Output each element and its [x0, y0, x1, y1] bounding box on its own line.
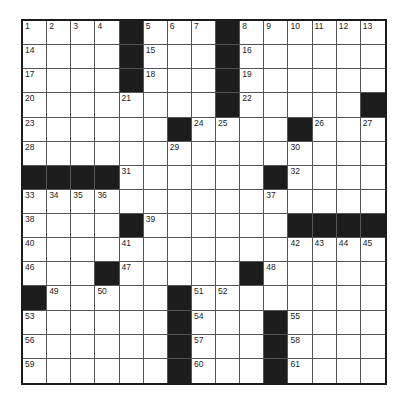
grid-cell[interactable] — [168, 45, 192, 69]
grid-cell[interactable] — [264, 118, 288, 142]
grid-cell[interactable] — [264, 214, 288, 238]
grid-cell[interactable] — [71, 359, 95, 383]
grid-cell[interactable] — [95, 69, 119, 93]
grid-cell[interactable]: 12 — [337, 21, 361, 45]
grid-cell[interactable] — [264, 69, 288, 93]
grid-cell[interactable] — [120, 286, 144, 310]
grid-cell[interactable] — [313, 166, 337, 190]
grid-cell[interactable] — [144, 142, 168, 166]
grid-cell[interactable] — [120, 190, 144, 214]
grid-cell[interactable]: 52 — [216, 286, 240, 310]
grid-cell[interactable] — [47, 311, 71, 335]
grid-cell[interactable] — [192, 45, 216, 69]
grid-cell[interactable]: 50 — [95, 286, 119, 310]
grid-cell[interactable] — [120, 311, 144, 335]
grid-cell[interactable] — [361, 190, 385, 214]
grid-cell[interactable] — [264, 238, 288, 262]
grid-cell[interactable] — [216, 262, 240, 286]
grid-cell[interactable] — [313, 359, 337, 383]
grid-cell[interactable] — [47, 93, 71, 117]
grid-cell[interactable] — [361, 262, 385, 286]
grid-cell[interactable] — [144, 118, 168, 142]
grid-cell[interactable] — [216, 311, 240, 335]
grid-cell[interactable] — [168, 262, 192, 286]
grid-cell[interactable]: 2 — [47, 21, 71, 45]
grid-cell[interactable] — [95, 238, 119, 262]
grid-cell[interactable] — [264, 286, 288, 310]
grid-cell[interactable]: 45 — [361, 238, 385, 262]
grid-cell[interactable] — [95, 45, 119, 69]
grid-cell[interactable]: 10 — [288, 21, 312, 45]
grid-cell[interactable] — [288, 45, 312, 69]
grid-cell[interactable] — [120, 142, 144, 166]
grid-cell[interactable] — [240, 286, 264, 310]
grid-cell[interactable] — [313, 311, 337, 335]
grid-cell[interactable]: 27 — [361, 118, 385, 142]
grid-cell[interactable] — [71, 262, 95, 286]
grid-cell[interactable] — [337, 166, 361, 190]
grid-cell[interactable]: 53 — [23, 311, 47, 335]
grid-cell[interactable] — [192, 190, 216, 214]
grid-cell[interactable] — [337, 93, 361, 117]
grid-cell[interactable] — [144, 359, 168, 383]
grid-cell[interactable] — [95, 118, 119, 142]
grid-cell[interactable] — [313, 335, 337, 359]
grid-cell[interactable]: 51 — [192, 286, 216, 310]
grid-cell[interactable] — [361, 286, 385, 310]
grid-cell[interactable] — [240, 359, 264, 383]
grid-cell[interactable]: 49 — [47, 286, 71, 310]
grid-cell[interactable] — [71, 45, 95, 69]
grid-cell[interactable] — [216, 335, 240, 359]
grid-cell[interactable]: 32 — [288, 166, 312, 190]
grid-cell[interactable]: 17 — [23, 69, 47, 93]
grid-cell[interactable] — [168, 190, 192, 214]
grid-cell[interactable] — [192, 69, 216, 93]
grid-cell[interactable] — [47, 214, 71, 238]
grid-cell[interactable] — [240, 118, 264, 142]
grid-cell[interactable]: 36 — [95, 190, 119, 214]
grid-cell[interactable] — [71, 286, 95, 310]
grid-cell[interactable] — [216, 166, 240, 190]
grid-cell[interactable] — [47, 45, 71, 69]
grid-cell[interactable] — [337, 286, 361, 310]
grid-cell[interactable] — [71, 214, 95, 238]
grid-cell[interactable] — [313, 69, 337, 93]
grid-cell[interactable] — [95, 335, 119, 359]
grid-cell[interactable]: 13 — [361, 21, 385, 45]
grid-cell[interactable] — [361, 335, 385, 359]
grid-cell[interactable] — [240, 190, 264, 214]
grid-cell[interactable]: 19 — [240, 69, 264, 93]
grid-cell[interactable]: 37 — [264, 190, 288, 214]
grid-cell[interactable] — [192, 238, 216, 262]
grid-cell[interactable] — [216, 190, 240, 214]
grid-cell[interactable] — [144, 335, 168, 359]
grid-cell[interactable] — [337, 311, 361, 335]
grid-cell[interactable] — [313, 142, 337, 166]
grid-cell[interactable]: 26 — [313, 118, 337, 142]
grid-cell[interactable] — [47, 142, 71, 166]
grid-cell[interactable] — [168, 166, 192, 190]
grid-cell[interactable] — [120, 359, 144, 383]
grid-cell[interactable]: 61 — [288, 359, 312, 383]
grid-cell[interactable] — [361, 69, 385, 93]
grid-cell[interactable] — [216, 214, 240, 238]
grid-cell[interactable] — [47, 359, 71, 383]
grid-cell[interactable] — [71, 142, 95, 166]
grid-cell[interactable] — [240, 335, 264, 359]
grid-cell[interactable] — [264, 142, 288, 166]
grid-cell[interactable] — [337, 45, 361, 69]
grid-cell[interactable]: 18 — [144, 69, 168, 93]
grid-cell[interactable]: 42 — [288, 238, 312, 262]
grid-cell[interactable]: 24 — [192, 118, 216, 142]
grid-cell[interactable]: 16 — [240, 45, 264, 69]
grid-cell[interactable] — [95, 142, 119, 166]
grid-cell[interactable]: 21 — [120, 93, 144, 117]
grid-cell[interactable]: 33 — [23, 190, 47, 214]
grid-cell[interactable]: 38 — [23, 214, 47, 238]
grid-cell[interactable] — [288, 69, 312, 93]
grid-cell[interactable] — [288, 93, 312, 117]
grid-cell[interactable]: 39 — [144, 214, 168, 238]
grid-cell[interactable] — [264, 45, 288, 69]
grid-cell[interactable] — [144, 93, 168, 117]
grid-cell[interactable] — [361, 142, 385, 166]
